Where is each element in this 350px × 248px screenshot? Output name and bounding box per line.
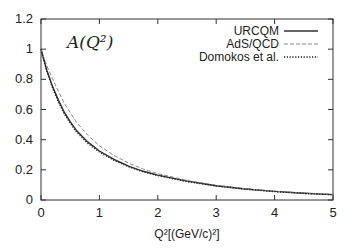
legend-label: Domokos et al.	[199, 50, 279, 64]
x-tick-label: 1	[96, 205, 103, 220]
series-urcqm	[41, 49, 333, 194]
legend: URCQMAdS/QCDDomokos et al.	[199, 24, 318, 64]
y-tick-label: 1	[26, 41, 33, 56]
series-domokos-et-al	[41, 49, 333, 195]
x-tick-label: 0	[37, 205, 44, 220]
x-tick-label: 3	[213, 205, 220, 220]
legend-label: AdS/QCD	[226, 37, 279, 51]
series-ads-qcd	[41, 49, 333, 194]
curves	[41, 49, 333, 195]
x-tick-label: 2	[154, 205, 161, 220]
x-tick-label: 4	[271, 205, 278, 220]
x-axis-title: Q²[(GeV/c)²]	[154, 227, 219, 241]
chart: 01234500.20.40.60.811.2 A(Q²) URCQMAdS/Q…	[0, 0, 350, 248]
y-tick-label: 0.2	[15, 162, 33, 177]
y-tick-label: 0.8	[15, 71, 33, 86]
axis-ticks: 01234500.20.40.60.811.2	[15, 11, 337, 220]
y-tick-label: 0.6	[15, 102, 33, 117]
y-tick-label: 0.4	[15, 132, 33, 147]
x-tick-label: 5	[329, 205, 336, 220]
y-tick-label: 1.2	[15, 11, 33, 26]
y-tick-label: 0	[26, 192, 33, 207]
annotation-label: A(Q²)	[65, 32, 113, 52]
legend-label: URCQM	[234, 24, 279, 38]
